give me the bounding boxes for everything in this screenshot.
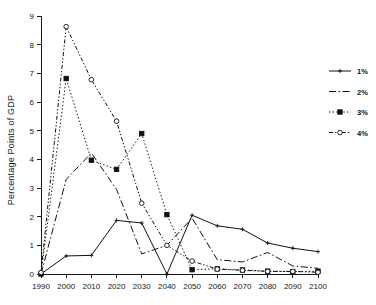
data-point-marker-plus (165, 272, 169, 276)
data-point-marker-square (140, 131, 144, 135)
data-point-marker-circle (215, 267, 220, 272)
data-point-marker-circle (39, 270, 44, 275)
y-tick-label: 1 (30, 241, 35, 250)
data-point-marker-circle (114, 119, 119, 124)
y-tick-label: 5 (30, 127, 35, 136)
data-point-marker-square (64, 76, 68, 80)
x-tick-label: 2080 (259, 282, 277, 291)
legend-label: 2% (357, 88, 368, 97)
x-tick-label: 2020 (108, 282, 126, 291)
series-line (41, 27, 318, 273)
line-chart: Percentage Points of GDP 0123456789 1990… (0, 0, 376, 305)
y-tick-label: 8 (30, 41, 35, 50)
x-tick-label: 2030 (133, 282, 151, 291)
data-point-marker-plus (316, 250, 320, 254)
y-tick-label: 3 (30, 184, 35, 193)
chart-legend: 1%2%3%4% (329, 67, 368, 138)
chart-figure: Percentage Points of GDP 0123456789 1990… (0, 0, 376, 305)
data-point-marker-circle (89, 77, 94, 82)
data-point-marker-circle (265, 269, 270, 274)
data-point-marker-plus (338, 69, 342, 73)
data-series (39, 213, 320, 276)
data-point-marker-circle (316, 270, 321, 275)
y-tick-label: 2 (30, 213, 35, 222)
y-tick-label: 9 (30, 12, 35, 21)
data-point-marker-plus (266, 241, 270, 245)
x-tick-label: 2090 (284, 282, 302, 291)
legend-item[interactable]: 2% (329, 88, 368, 97)
data-point-marker-plus (190, 213, 194, 217)
x-tick-label: 2050 (183, 282, 201, 291)
x-tick-label: 2060 (208, 282, 226, 291)
data-point-marker-square (89, 158, 93, 162)
data-point-marker-plus (291, 246, 295, 250)
y-tick-label: 6 (30, 98, 35, 107)
data-point-marker-circle (291, 269, 296, 274)
x-tick-label: 2100 (309, 282, 327, 291)
x-axis-ticks: 1990200020102020203020402050206020702080… (32, 274, 327, 291)
data-point-marker-square (338, 110, 342, 114)
y-axis-title-text: Percentage Points of GDP (6, 95, 16, 205)
data-point-marker-plus (215, 224, 219, 228)
x-tick-label: 2040 (158, 282, 176, 291)
data-point-marker-circle (139, 201, 144, 206)
legend-label: 3% (357, 108, 368, 117)
legend-item[interactable]: 3% (329, 108, 368, 117)
data-series (39, 76, 320, 276)
data-point-marker-circle (240, 268, 245, 273)
legend-item[interactable]: 1% (329, 67, 368, 76)
data-point-marker-circle (64, 24, 69, 29)
series-line (41, 215, 318, 274)
data-point-marker-plus (240, 227, 244, 231)
data-point-marker-circle (338, 130, 343, 135)
data-point-marker-square (165, 212, 169, 216)
y-tick-label: 7 (30, 69, 35, 78)
legend-item[interactable]: 4% (329, 129, 368, 138)
x-tick-label: 2000 (57, 282, 75, 291)
data-point-marker-circle (190, 259, 195, 264)
y-axis-ticks: 0123456789 (30, 12, 41, 279)
x-tick-label: 1990 (32, 282, 50, 291)
y-axis-title: Percentage Points of GDP (6, 95, 16, 205)
x-tick-label: 2070 (234, 282, 252, 291)
x-tick-label: 2010 (82, 282, 100, 291)
data-series (39, 24, 321, 275)
data-point-marker-square (190, 268, 194, 272)
data-point-marker-circle (165, 243, 170, 248)
data-point-marker-square (114, 167, 118, 171)
y-tick-label: 4 (30, 155, 35, 164)
y-tick-label: 0 (30, 270, 35, 279)
data-point-marker-plus (140, 221, 144, 225)
legend-label: 4% (357, 129, 368, 138)
data-series-layer (39, 24, 321, 276)
legend-label: 1% (357, 67, 368, 76)
